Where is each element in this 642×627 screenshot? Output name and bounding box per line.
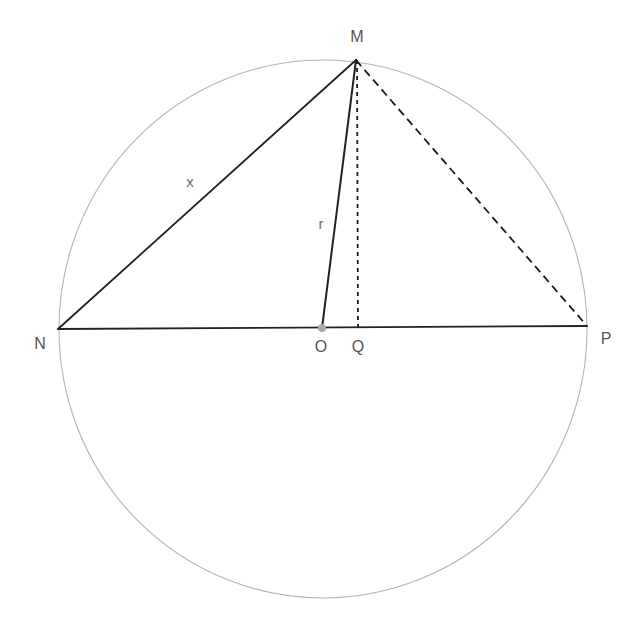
center-point-marker-o [318,324,326,332]
geometry-diagram: N M O Q P x r [0,0,642,627]
geometry-canvas: N M O Q P x r [0,0,642,627]
segment-mq-altitude-dashed [357,60,358,328]
point-label-o: O [315,338,327,355]
measure-label-x: x [186,173,194,190]
segment-mp-chord-dashed [356,60,587,326]
measure-label-r: r [319,215,324,232]
point-label-m: M [350,28,363,45]
point-label-q: Q [352,338,364,355]
segment-om-radius [322,60,356,328]
point-label-n: N [34,335,46,352]
point-label-p: P [601,330,612,347]
segment-nm-chord [58,60,356,329]
